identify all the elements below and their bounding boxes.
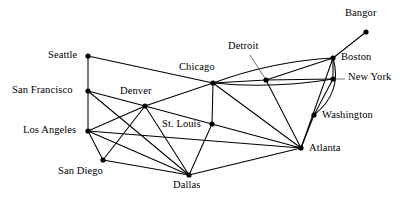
node-dot-sanfrancisco[interactable] [85,88,90,93]
edge-denver-chicago [145,83,213,106]
node-label-seattle: Seattle [48,50,77,61]
node-label-losangeles: Los Angeles [23,125,76,136]
node-label-atlanta: Atlanta [309,143,341,154]
node-dot-atlanta[interactable] [298,145,303,150]
node-dot-bangor[interactable] [363,29,368,34]
edge-losangeles-sandiego [88,131,103,160]
edge-chicago-atlanta [213,83,301,148]
network-graph-figure: BangorBostonNew YorkDetroitChicagoWashin… [0,0,414,202]
node-label-washington: Washington [322,110,373,121]
edge-boston-washington [314,58,336,115]
node-dot-detroit[interactable] [263,77,268,82]
node-dot-dallas[interactable] [186,172,191,177]
edge-sandiego-dallas [103,160,189,175]
node-dot-washington[interactable] [311,112,316,117]
node-dot-boston[interactable] [330,55,335,60]
node-label-denver: Denver [120,86,152,97]
edges-group [88,32,366,175]
node-dot-seattle[interactable] [85,53,90,58]
node-dot-stlouis[interactable] [209,121,214,126]
edge-chicago-stlouis [212,83,213,124]
node-label-newyork: New York [348,72,391,83]
node-dot-losangeles[interactable] [85,128,90,133]
node-label-sandiego: San Diego [58,166,103,177]
node-dot-denver[interactable] [142,103,147,108]
node-label-sanfrancisco: San Francisco [12,85,73,96]
node-dot-sandiego[interactable] [100,157,105,162]
node-dot-newyork[interactable] [330,76,335,81]
node-label-detroit: Detroit [228,41,258,52]
edge-stlouis-dallas [189,124,212,175]
edge-losangeles-denver [88,106,145,131]
node-label-stlouis: St. Louis [162,119,201,130]
node-label-chicago: Chicago [179,62,215,73]
edge-dallas-atlanta [189,148,301,175]
edge-detroit-newyork [266,79,333,80]
edge-detroit-atlanta [266,80,301,148]
node-dot-chicago[interactable] [210,80,215,85]
node-label-dallas: Dallas [173,180,200,191]
node-label-boston: Boston [341,52,371,63]
node-label-bangor: Bangor [345,8,377,19]
